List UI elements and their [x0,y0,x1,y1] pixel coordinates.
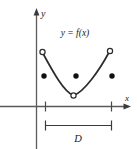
x-axis-arrowhead [124,104,132,110]
filled-point-left [41,73,46,78]
filled-points [41,73,114,78]
open-point-right-endpoint [107,48,112,53]
domain-label: D [73,133,82,144]
open-point-vertex [71,93,76,98]
domain-bracket: D [46,121,112,145]
y-axis-arrowhead [34,8,40,16]
open-points [40,48,113,98]
graph-canvas: y x y = f(x) [0,0,137,149]
filled-point-right [109,73,114,78]
open-point-left-endpoint [40,49,45,54]
function-label: y = f(x) [60,28,90,39]
x-axis-label: x [124,93,129,103]
function-graph-figure: y x y = f(x) [0,0,137,149]
filled-point-middle [73,73,78,78]
y-axis-label: y [40,8,46,19]
